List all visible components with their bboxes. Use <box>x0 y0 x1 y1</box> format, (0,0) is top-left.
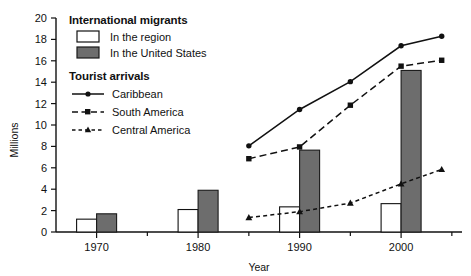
y-axis-title: Millions <box>8 122 20 157</box>
legend-item-caribbean[interactable]: Caribbean <box>72 88 163 100</box>
y-axis-tick-labels: 02468101214161820 <box>35 12 47 238</box>
y-tick-label: 2 <box>41 205 47 217</box>
bar-in-the-united-states <box>97 214 117 232</box>
x-axis-title: Year <box>248 261 270 273</box>
bar-in-the-region <box>280 207 300 232</box>
data-point-south-america <box>297 144 302 149</box>
data-point-south-america <box>246 156 251 161</box>
data-point-central-america <box>438 166 445 172</box>
y-tick-label: 18 <box>35 33 47 45</box>
legend-group-title-migrants: International migrants <box>69 14 188 26</box>
legend-item-in-the-united-states[interactable]: In the United States <box>77 47 207 59</box>
data-point-caribbean <box>297 107 302 112</box>
x-tick-label: 1980 <box>186 241 210 253</box>
bar-in-the-united-states <box>300 150 320 232</box>
data-point-south-america <box>398 63 403 68</box>
data-point-caribbean <box>439 33 444 38</box>
bar-in-the-region <box>77 219 97 232</box>
legend-label-caribbean: Caribbean <box>112 88 163 100</box>
legend: International migrants In the region In … <box>69 14 207 136</box>
y-tick-label: 14 <box>35 76 47 88</box>
x-tick-label: 1990 <box>287 241 311 253</box>
x-tick-label: 1970 <box>84 241 108 253</box>
legend-item-south-america[interactable]: South America <box>72 106 184 118</box>
legend-item-central-america[interactable]: Central America <box>72 124 191 136</box>
x-axis-tick-labels: 1970198019902000 <box>84 241 413 253</box>
bar-in-the-region <box>381 204 401 232</box>
data-point-caribbean <box>246 143 251 148</box>
data-point-south-america <box>439 58 444 63</box>
chart-container: 02468101214161820 1970198019902000 Milli… <box>0 0 471 276</box>
legend-label-in-the-united-states: In the United States <box>110 47 207 59</box>
bar-in-the-united-states <box>401 70 421 232</box>
y-tick-label: 16 <box>35 55 47 67</box>
y-tick-label: 4 <box>41 183 47 195</box>
legend-group-title-tourist: Tourist arrivals <box>69 70 150 82</box>
legend-item-in-the-region[interactable]: In the region <box>77 31 171 43</box>
data-point-central-america <box>347 200 354 206</box>
legend-label-in-the-region: In the region <box>110 31 171 43</box>
legend-label-central-america: Central America <box>112 124 191 136</box>
y-tick-label: 0 <box>41 226 47 238</box>
data-point-caribbean <box>348 79 353 84</box>
circle-marker-icon <box>85 91 90 96</box>
x-axis-ticks <box>97 232 452 238</box>
y-tick-label: 20 <box>35 12 47 24</box>
bar-series-in-the-region <box>77 204 402 232</box>
legend-label-south-america: South America <box>112 106 184 118</box>
y-tick-label: 6 <box>41 162 47 174</box>
filled-square-swatch-icon <box>77 47 99 58</box>
chart-svg: 02468101214161820 1970198019902000 Milli… <box>0 0 471 276</box>
y-tick-label: 12 <box>35 98 47 110</box>
open-square-swatch-icon <box>77 31 99 42</box>
bar-in-the-united-states <box>198 190 218 232</box>
data-point-south-america <box>348 103 353 108</box>
y-tick-label: 8 <box>41 140 47 152</box>
bar-in-the-region <box>178 210 198 232</box>
y-tick-label: 10 <box>35 119 47 131</box>
y-axis-ticks <box>51 18 56 232</box>
square-marker-icon <box>85 109 90 114</box>
x-tick-label: 2000 <box>389 241 413 253</box>
data-point-caribbean <box>398 43 403 48</box>
